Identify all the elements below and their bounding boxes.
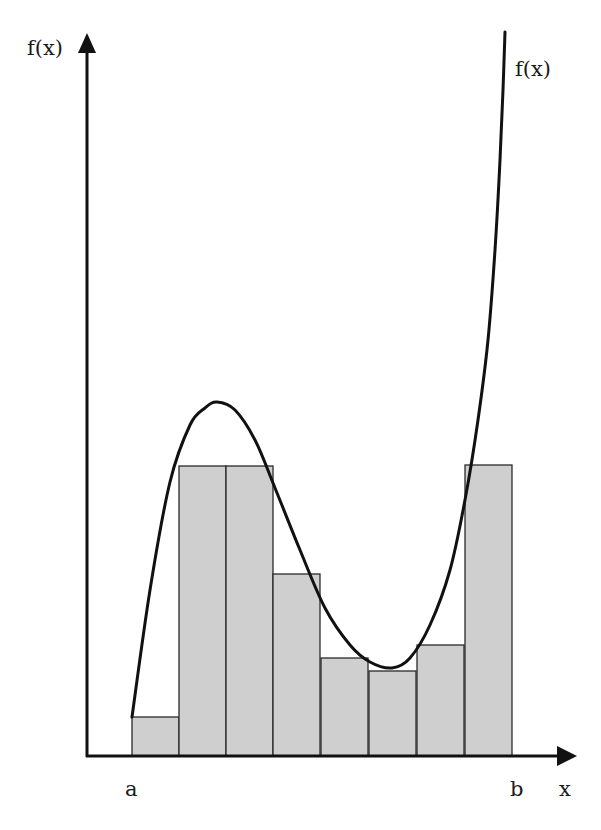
y-axis-arrowhead-icon: [78, 33, 96, 53]
riemann-rectangle: [226, 466, 273, 756]
riemann-rectangle: [273, 574, 320, 756]
riemann-rectangle: [321, 658, 368, 756]
y-axis-label: f(x): [27, 36, 63, 60]
interval-end-label: b: [510, 777, 523, 801]
curve-label: f(x): [515, 57, 551, 81]
x-axis-label: x: [559, 777, 571, 801]
riemann-rectangles: [132, 465, 512, 756]
riemann-sum-diagram: f(x) f(x) a b x: [0, 0, 601, 830]
riemann-rectangle: [417, 645, 464, 756]
riemann-rectangle: [179, 466, 226, 756]
interval-start-label: a: [125, 777, 138, 801]
riemann-rectangle: [465, 465, 512, 756]
riemann-rectangle: [369, 671, 416, 756]
x-axis-arrowhead-icon: [557, 746, 577, 766]
riemann-rectangle: [132, 717, 179, 756]
